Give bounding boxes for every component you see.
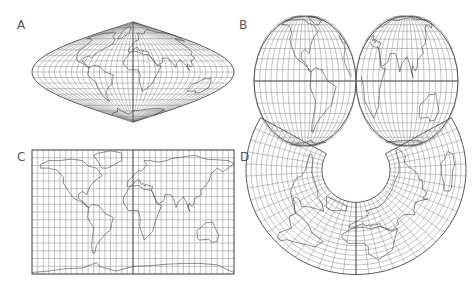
sinusoidal-map	[32, 22, 234, 122]
rectangular-map	[32, 150, 234, 274]
hemisphere-map	[254, 16, 458, 146]
conic-map	[246, 118, 466, 275]
map-projections-figure	[0, 0, 476, 300]
